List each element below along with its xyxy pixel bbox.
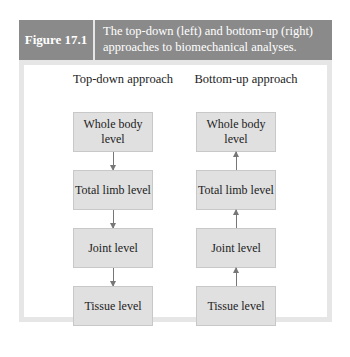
arrow-up-icon <box>236 152 237 170</box>
top-down-total-limb-box: Total limb level <box>73 170 153 210</box>
bottom-up-whole-body-box: Whole body level <box>196 112 276 152</box>
bottom-up-tissue-box: Tissue level <box>196 286 276 326</box>
bottom-up-title: Bottom-up approach <box>191 72 301 87</box>
bottom-up-total-limb-box: Total limb level <box>196 170 276 210</box>
top-down-title: Top-down approach <box>68 72 178 87</box>
arrow-down-icon <box>113 210 114 228</box>
figure-label: Figure 17.1 <box>19 20 95 60</box>
figure-header: Figure 17.1 The top-down (left) and bott… <box>19 20 332 60</box>
figure-frame: Figure 17.1 The top-down (left) and bott… <box>19 20 332 322</box>
diagram-area: Top-down approach Whole body level Total… <box>24 65 327 317</box>
top-down-whole-body-box: Whole body level <box>73 112 153 152</box>
top-down-joint-box: Joint level <box>73 228 153 268</box>
figure-caption: The top-down (left) and bottom-up (right… <box>95 20 332 60</box>
bottom-up-joint-box: Joint level <box>196 228 276 268</box>
arrow-down-icon <box>113 268 114 286</box>
arrow-up-icon <box>236 268 237 286</box>
arrow-up-icon <box>236 210 237 228</box>
arrow-down-icon <box>113 152 114 170</box>
top-down-tissue-box: Tissue level <box>73 286 153 326</box>
